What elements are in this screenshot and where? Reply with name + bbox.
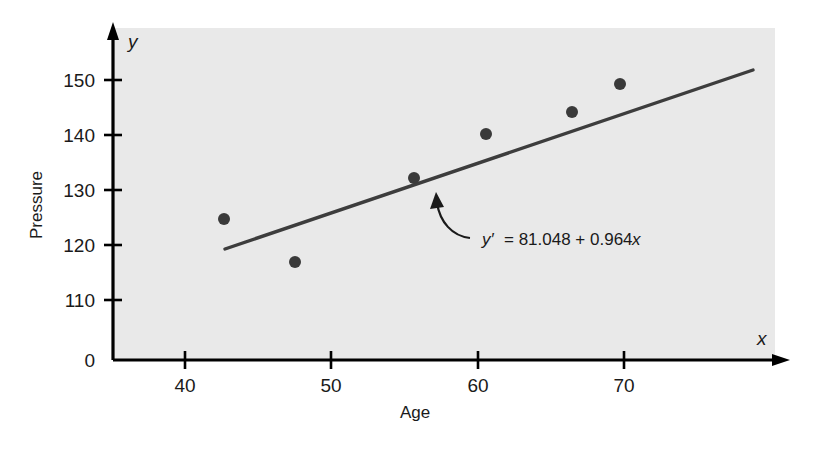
y-tick-label-110: 110 bbox=[65, 290, 95, 311]
x-tick-label-70: 70 bbox=[613, 375, 634, 396]
x-axis-variable-label: x bbox=[756, 328, 768, 349]
equation-variable: x bbox=[631, 230, 641, 249]
y-tick-label-150: 150 bbox=[63, 70, 95, 91]
plot-canvas: 150 140 130 120 110 0 40 50 60 70 y x Pr… bbox=[0, 0, 820, 451]
regression-scatter-figure: 150 140 130 120 110 0 40 50 60 70 y x Pr… bbox=[0, 0, 820, 451]
y-tick-label-140: 140 bbox=[63, 125, 95, 146]
x-tick-label-50: 50 bbox=[320, 375, 341, 396]
y-tick-label-130: 130 bbox=[63, 180, 95, 201]
y-axis-origin-label: 0 bbox=[84, 350, 95, 371]
x-tick-label-60: 60 bbox=[467, 375, 488, 396]
equation-lhs: y′ bbox=[481, 230, 495, 249]
y-axis-variable-label: y bbox=[126, 31, 139, 52]
data-point bbox=[408, 172, 420, 184]
plot-background bbox=[113, 28, 775, 360]
y-tick-label-120: 120 bbox=[63, 235, 95, 256]
data-point bbox=[480, 128, 492, 140]
x-axis-title: Age bbox=[400, 403, 430, 422]
regression-equation-annotation: y′ = 81.048 + 0.964 x bbox=[481, 230, 641, 249]
data-point bbox=[218, 213, 230, 225]
x-axis-arrowhead bbox=[772, 354, 790, 366]
equation-body: = 81.048 + 0.964 bbox=[504, 230, 633, 249]
x-tick-label-40: 40 bbox=[174, 375, 195, 396]
data-point bbox=[614, 78, 626, 90]
data-point bbox=[566, 106, 578, 118]
data-point bbox=[289, 256, 301, 268]
y-axis-title: Pressure bbox=[27, 171, 46, 239]
